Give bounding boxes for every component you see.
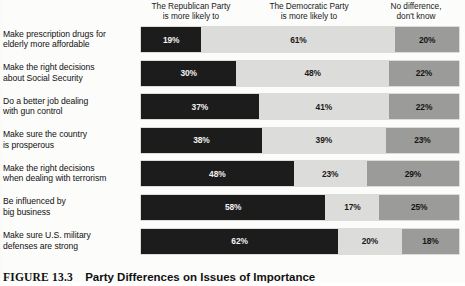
chart-row: Make the right decisionsabout Social Sec… (0, 61, 465, 86)
bar-segment-no-difference: 29% (367, 161, 459, 186)
bar-segment-no-difference: 25% (379, 195, 459, 220)
bar-segment-no-difference-value: 22% (416, 68, 432, 78)
bar-segment-democratic: 41% (259, 94, 389, 119)
chart-row-label: Do a better job dealingwith gun control (3, 96, 137, 117)
bar-segment-democratic: 61% (201, 27, 395, 52)
bar-segment-democratic-value: 17% (344, 202, 360, 212)
bar-segment-republican: 58% (141, 195, 325, 220)
chart-row-label-line1: Make the right decisions (3, 163, 94, 173)
bar-segment-democratic: 23% (294, 161, 367, 186)
bar-segment-republican: 37% (141, 94, 259, 119)
stacked-bar: 38%39%23% (141, 128, 459, 153)
bar-segment-republican: 38% (141, 128, 262, 153)
bar-segment-democratic-value: 61% (290, 35, 306, 45)
chart-row-label-line1: Do a better job dealing (3, 96, 88, 106)
stacked-bar: 62%20%18% (141, 229, 459, 254)
bar-segment-no-difference: 22% (389, 61, 459, 86)
bar-segment-no-difference-value: 23% (414, 135, 430, 145)
bar-segment-republican-value: 19% (163, 35, 179, 45)
legend-header-republican: The Republican Party is more likely to (132, 1, 250, 22)
bar-segment-republican-value: 38% (193, 135, 209, 145)
chart-row-label: Make the right decisionsabout Social Sec… (3, 63, 137, 84)
bar-segment-democratic-value: 48% (304, 68, 320, 78)
chart-row-label-line2: defenses are strong (3, 241, 137, 252)
stacked-bar: 58%17%25% (141, 195, 459, 220)
chart-row-label-line1: Make the right decisions (3, 63, 94, 73)
bar-segment-republican-value: 37% (192, 102, 208, 112)
legend-header-no-difference: No difference, don't know (368, 1, 464, 22)
chart-legend-headers: The Republican Party is more likely to T… (0, 1, 465, 27)
bar-segment-democratic-value: 41% (316, 102, 332, 112)
bar-segment-republican: 30% (141, 61, 236, 86)
bar-segment-democratic-value: 39% (316, 135, 332, 145)
bar-segment-republican: 48% (141, 161, 294, 186)
chart-row-label-line1: Make sure the country (3, 130, 87, 140)
bar-segment-no-difference-value: 18% (422, 236, 438, 246)
bar-segment-no-difference-value: 25% (411, 202, 427, 212)
chart-row: Make the right decisionswhen dealing wit… (0, 161, 465, 186)
chart-rows: Make prescription drugs forelderly more … (0, 27, 465, 262)
bar-segment-no-difference: 22% (389, 94, 459, 119)
bar-segment-democratic: 17% (325, 195, 379, 220)
chart-row-label-line1: Make prescription drugs for (3, 29, 106, 39)
bar-segment-democratic-value: 20% (362, 236, 378, 246)
chart-row-label-line1: Make sure U.S. military (3, 230, 91, 240)
bar-segment-republican: 19% (141, 27, 201, 52)
legend-header-democratic-line1: The Democratic Party (269, 1, 348, 11)
chart-row-label: Make sure U.S. militarydefenses are stro… (3, 230, 137, 251)
legend-header-no-difference-line1: No difference, (391, 1, 442, 11)
chart-row-label: Make the right decisionswhen dealing wit… (3, 163, 137, 184)
bar-segment-republican-value: 58% (225, 202, 241, 212)
bar-segment-republican: 62% (141, 229, 338, 254)
chart-row-label: Be influenced bybig business (3, 197, 137, 218)
bar-segment-no-difference: 18% (402, 229, 459, 254)
bar-segment-democratic-value: 23% (322, 169, 338, 179)
stacked-bar: 37%41%22% (141, 94, 459, 119)
bar-segment-no-difference: 20% (395, 27, 459, 52)
bar-segment-republican-value: 30% (180, 68, 196, 78)
stacked-bar: 19%61%20% (141, 27, 459, 52)
bar-segment-democratic: 39% (262, 128, 386, 153)
chart-row-label-line2: when dealing with terrorism (3, 174, 137, 185)
stacked-bar: 30%48%22% (141, 61, 459, 86)
bar-segment-no-difference: 23% (386, 128, 459, 153)
bar-segment-republican-value: 62% (231, 236, 247, 246)
legend-header-democratic: The Democratic Party is more likely to (250, 1, 368, 22)
bar-segment-democratic: 20% (338, 229, 402, 254)
chart-row-label-line2: with gun control (3, 107, 137, 118)
bar-segment-no-difference-value: 29% (405, 169, 421, 179)
bar-segment-no-difference-value: 22% (416, 102, 432, 112)
chart-row-label-line2: is prosperous (3, 140, 137, 151)
chart-row: Do a better job dealingwith gun control3… (0, 94, 465, 119)
chart-row-label-line2: about Social Security (3, 73, 137, 84)
chart-row: Make sure U.S. militarydefenses are stro… (0, 229, 465, 254)
chart-row-label-line2: big business (3, 207, 137, 218)
legend-header-democratic-line2: is more likely to (250, 11, 368, 21)
stacked-bar: 48%23%29% (141, 161, 459, 186)
legend-header-no-difference-line2: don't know (368, 11, 464, 21)
chart-row: Make sure the countryis prosperous38%39%… (0, 128, 465, 153)
chart-row: Be influenced bybig business58%17%25% (0, 195, 465, 220)
chart-row: Make prescription drugs forelderly more … (0, 27, 465, 52)
bar-segment-republican-value: 48% (209, 169, 225, 179)
chart-row-label-line1: Be influenced by (3, 197, 66, 207)
legend-header-republican-line2: is more likely to (132, 11, 250, 21)
figure-caption: FIGURE 13.3 Party Differences on Issues … (3, 271, 463, 286)
bar-segment-democratic: 48% (236, 61, 389, 86)
chart-row-label-line2: elderly more affordable (3, 40, 137, 51)
chart-row-label: Make prescription drugs forelderly more … (3, 29, 137, 50)
legend-header-republican-line1: The Republican Party (152, 1, 231, 11)
chart-row-label: Make sure the countryis prosperous (3, 130, 137, 151)
figure-caption-number: FIGURE 13.3 (3, 271, 73, 283)
bar-segment-no-difference-value: 20% (419, 35, 435, 45)
figure-caption-title: Party Differences on Issues of Importanc… (85, 271, 315, 283)
